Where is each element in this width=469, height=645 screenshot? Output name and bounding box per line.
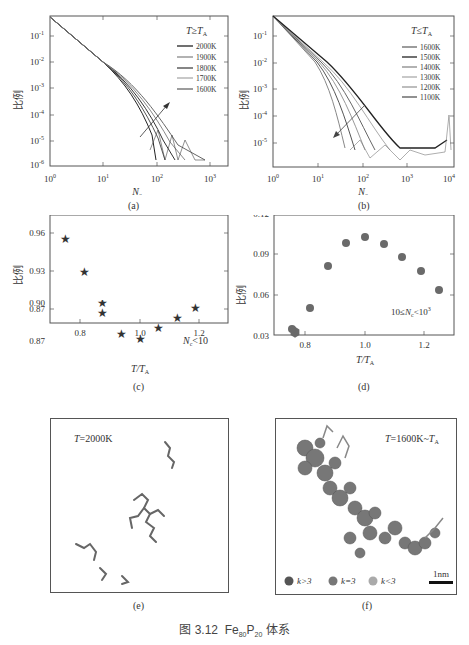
scale-bar — [429, 581, 453, 584]
figure-caption: 图 3.12 Fe80P20 体系 — [0, 620, 469, 638]
svg-text:★: ★ — [172, 311, 183, 325]
x-axis-label: T/TA — [356, 354, 375, 366]
panel-b-chart: 10-1 10-2 10-3 10-4 10-5 100 101 102 103… — [235, 0, 469, 195]
svg-text:T≤TA: T≤TA — [411, 25, 433, 37]
image-frame — [51, 419, 229, 593]
panel-c-label: (c) — [133, 381, 144, 392]
svg-text:★: ★ — [60, 232, 71, 246]
y-axis-label: 比例 — [235, 285, 247, 305]
panel-d-label: (d) — [358, 381, 370, 392]
scale-bar-label: 1nm — [433, 569, 449, 579]
y-tick-labels: 10-1 10-2 10-3 10-4 10-5 10-6 — [30, 30, 44, 170]
x-tick-labels: 100 101 102 103 — [44, 173, 216, 184]
svg-text:0.90: 0.90 — [29, 300, 45, 308]
svg-text:100: 100 — [44, 173, 56, 184]
y-tick-labels: 0.03 0.06 0.09 0.12 — [253, 215, 269, 341]
svg-text:k=3: k=3 — [341, 576, 356, 586]
svg-text:0.96: 0.96 — [29, 228, 45, 238]
panel-e-image: TT=2000K=2000K — [50, 418, 230, 593]
svg-text:1800K: 1800K — [196, 64, 217, 73]
svg-text:104: 104 — [443, 173, 455, 184]
svg-text:0.8: 0.8 — [299, 340, 311, 350]
svg-text:1200K: 1200K — [420, 83, 441, 92]
svg-text:0.09: 0.09 — [253, 249, 269, 259]
annotation: 10≤Nc<103 — [391, 306, 431, 318]
svg-text:2000K: 2000K — [196, 42, 217, 51]
panel-c-chart-lower: 0.90 0.87 ★ ★ ★ ★ ★ ★ ★ Nc<10 T/TA — [0, 300, 235, 380]
svg-text:10-1: 10-1 — [30, 30, 44, 41]
y-axis-label: 比例 — [12, 265, 24, 285]
svg-text:★: ★ — [209, 300, 220, 301]
svg-text:1.0: 1.0 — [359, 340, 371, 350]
svg-text:★: ★ — [153, 321, 164, 335]
svg-text:★: ★ — [97, 300, 108, 310]
svg-text:0.87: 0.87 — [29, 336, 45, 346]
plot-frame — [274, 215, 454, 335]
svg-text:10-4: 10-4 — [30, 109, 44, 120]
svg-text:1400K: 1400K — [420, 63, 441, 72]
svg-text:102: 102 — [151, 173, 163, 184]
svg-text:101: 101 — [97, 173, 109, 184]
annotation: Nc<10 — [182, 335, 208, 347]
svg-text:103: 103 — [204, 173, 216, 184]
panel-a-label: (a) — [128, 200, 139, 211]
svg-text:102: 102 — [357, 173, 369, 184]
svg-text:1700K: 1700K — [196, 74, 217, 83]
svg-text:1100K: 1100K — [420, 93, 441, 102]
y-tick-labels: 10-1 10-2 10-3 10-4 10-5 — [253, 30, 267, 148]
panel-e-label: (e) — [133, 600, 144, 611]
svg-text:10-5: 10-5 — [253, 137, 267, 148]
svg-text:10-2: 10-2 — [253, 57, 267, 68]
panel-f-image: T=1600K~TA k>3 k=3 k<3 1nm — [275, 418, 460, 598]
svg-text:10-2: 10-2 — [30, 56, 44, 67]
svg-text:★: ★ — [135, 332, 146, 346]
x-tick-labels: 0.8 1.0 1.2 — [299, 340, 429, 350]
x-axis-label: Nc — [131, 186, 142, 195]
svg-text:0.93: 0.93 — [29, 266, 45, 276]
svg-text:1600K: 1600K — [420, 43, 441, 52]
svg-text:0.03: 0.03 — [253, 331, 269, 341]
y-axis-label: 比例 — [238, 90, 250, 110]
x-axis-label: T/TA — [131, 363, 150, 375]
panel-b-label: (b) — [358, 200, 370, 211]
panel-f-label: (f) — [362, 600, 372, 611]
svg-text:0.06: 0.06 — [253, 290, 269, 300]
svg-text:★: ★ — [116, 327, 127, 341]
svg-text:T≥TA: T≥TA — [186, 25, 208, 37]
panel-e-title: TT=2000K=2000K — [74, 433, 113, 444]
svg-text:10-3: 10-3 — [253, 83, 267, 94]
svg-text:101: 101 — [312, 173, 324, 184]
x-axis-label: Nc — [357, 186, 368, 195]
panel-f-title: T=1600K~TA — [385, 433, 439, 445]
svg-text:1.2: 1.2 — [418, 340, 429, 350]
svg-text:1600K: 1600K — [196, 85, 217, 94]
svg-text:1500K: 1500K — [420, 53, 441, 62]
svg-text:0.12: 0.12 — [253, 215, 269, 219]
svg-text:100: 100 — [267, 173, 279, 184]
panel-a-chart: 10-1 10-2 10-3 10-4 10-5 10-6 100 101 10… — [0, 0, 235, 195]
svg-text:10-3: 10-3 — [30, 82, 44, 93]
svg-text:★: ★ — [79, 265, 90, 279]
svg-text:10-5: 10-5 — [30, 135, 44, 146]
hexagon-markers — [288, 233, 443, 338]
svg-text:★: ★ — [190, 301, 201, 315]
svg-text:1900K: 1900K — [196, 53, 217, 62]
svg-text:10-6: 10-6 — [30, 159, 44, 170]
svg-text:103: 103 — [401, 173, 413, 184]
y-axis-label: 比例 — [12, 90, 24, 110]
svg-text:10-4: 10-4 — [253, 110, 267, 121]
panel-d-chart: 0.03 0.06 0.09 0.12 0.8 1.0 1.2 10≤Nc<10… — [235, 215, 469, 380]
x-tick-labels: 100 101 102 103 104 — [267, 173, 455, 184]
svg-text:10-1: 10-1 — [253, 30, 267, 41]
svg-text:k<3: k<3 — [381, 576, 396, 586]
legend: T≤TA 1600K 1500K 1400K 1300K 1200K 1100K — [402, 25, 441, 102]
y-tick-labels: 0.90 0.87 — [29, 300, 45, 346]
svg-text:1300K: 1300K — [420, 73, 441, 82]
legend: T≥TA 2000K 1900K 1800K 1700K 1600K — [177, 25, 217, 94]
svg-text:k>3: k>3 — [297, 576, 312, 586]
